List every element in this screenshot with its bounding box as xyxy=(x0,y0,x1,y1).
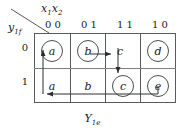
state-e-circled: e xyxy=(147,75,169,97)
state-d-circled: d xyxy=(147,40,169,62)
state-b-circled: b xyxy=(77,40,99,62)
cell-r1-c2: c xyxy=(105,69,141,103)
row-header-0: 0 xyxy=(18,42,32,53)
cell-r1-c0: a xyxy=(34,69,70,103)
cell-r0-c0: a xyxy=(34,34,70,68)
state-b-plain: b xyxy=(84,81,91,92)
output-label: Y1e xyxy=(0,112,185,127)
column-header-11: 1 1 xyxy=(106,19,144,30)
column-variable-label: x1x2 xyxy=(41,2,62,17)
cell-r0-c3: d xyxy=(140,34,176,68)
cell-r1-c1: b xyxy=(70,69,106,103)
row-header-1: 1 xyxy=(18,76,32,87)
state-c-circled: c xyxy=(112,75,134,97)
karnaugh-map-diagram: x1x2 y1f 0 0 0 1 1 1 1 0 0 1 a b c d a b… xyxy=(0,0,185,136)
state-a-circled: a xyxy=(41,40,63,62)
cell-r1-c3: e xyxy=(140,69,176,103)
row-variable-label: y1f xyxy=(8,21,21,36)
state-a-plain: a xyxy=(49,81,56,92)
cell-r0-c1: b xyxy=(70,34,106,68)
column-header-10: 1 0 xyxy=(141,19,179,30)
state-c-plain: c xyxy=(117,46,123,57)
column-header-00: 0 0 xyxy=(34,19,72,30)
column-header-01: 0 1 xyxy=(70,19,108,30)
